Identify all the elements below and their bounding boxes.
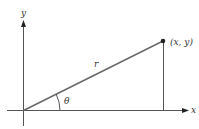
point-marker [161,39,166,44]
polar-coordinate-diagram: x y (x, y) r θ [0,0,199,129]
y-axis-arrow-icon [21,20,26,27]
x-axis-label: x [191,105,196,115]
radius-label: r [94,59,99,69]
angle-arc [56,94,60,110]
radius-line [24,41,164,111]
x-axis-arrow-icon [182,108,189,113]
point-label: (x, y) [170,37,193,47]
y-axis-label: y [20,8,27,18]
angle-label: θ [64,96,70,106]
